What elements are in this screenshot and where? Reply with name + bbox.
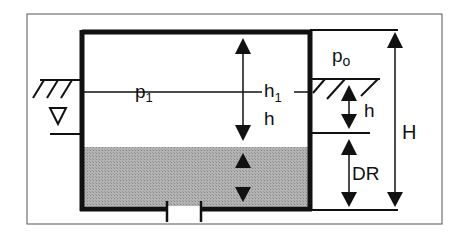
h-right-label: h (364, 100, 375, 121)
h1-label: h1 (264, 80, 282, 105)
interior-h-arrow (235, 38, 251, 141)
H-arrow (387, 32, 403, 207)
ground-hatch-icon (33, 80, 80, 98)
right-h-arrow (341, 85, 357, 129)
p1-label: p1 (135, 81, 153, 105)
H-label: H (402, 121, 416, 143)
h-inner-label: h (264, 108, 275, 129)
po-label: po (332, 45, 351, 69)
tank-diagram: p1 h1 h po h DR H (0, 0, 464, 241)
dr-label: DR (352, 163, 379, 184)
fluid-fill (84, 147, 308, 206)
nabla-icon (50, 108, 80, 134)
